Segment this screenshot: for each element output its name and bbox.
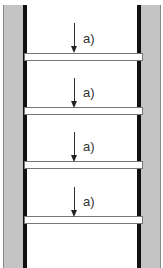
label-a-4: a) [83,195,95,208]
label-a-2: a) [83,86,95,99]
rung-1 [24,53,143,61]
right-wall [141,5,161,268]
left-wall [3,5,24,268]
rung-2 [24,107,143,115]
left-post [23,5,27,268]
label-a-1: a) [83,32,95,45]
rung-4 [24,216,143,224]
right-post [137,5,141,268]
rung-3 [24,161,143,169]
label-a-3: a) [83,140,95,153]
